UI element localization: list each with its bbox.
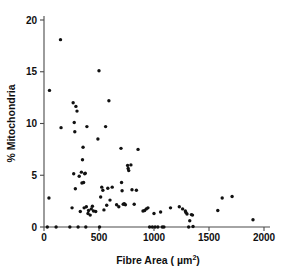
- x-tick-label-0: 0: [41, 232, 47, 243]
- data-point: [91, 205, 94, 208]
- data-point: [188, 219, 191, 222]
- data-point: [84, 225, 87, 228]
- data-point: [107, 99, 110, 102]
- data-point: [191, 225, 194, 228]
- data-point: [124, 203, 127, 206]
- data-point: [117, 205, 120, 208]
- data-point: [71, 101, 74, 104]
- data-point: [78, 175, 81, 178]
- y-axis-title: % Mitochondria: [5, 84, 17, 162]
- data-point: [85, 125, 88, 128]
- data-point: [221, 196, 224, 199]
- data-point: [111, 185, 114, 188]
- data-point: [82, 181, 85, 184]
- data-point: [72, 172, 75, 175]
- data-point: [185, 212, 188, 215]
- data-point: [187, 225, 190, 228]
- data-point: [191, 213, 194, 216]
- data-point: [100, 185, 103, 188]
- data-point: [94, 210, 97, 213]
- data-point: [156, 225, 159, 228]
- x-tick-label-500: 500: [91, 232, 108, 243]
- data-point: [76, 225, 79, 228]
- data-point: [47, 196, 50, 199]
- data-point: [130, 188, 133, 191]
- data-point: [104, 125, 107, 128]
- data-point: [46, 225, 49, 228]
- data-point: [84, 171, 87, 174]
- data-points-group: [46, 38, 255, 229]
- data-point: [146, 206, 149, 209]
- data-point: [54, 225, 57, 228]
- data-point: [80, 170, 83, 173]
- data-point: [79, 210, 82, 213]
- scatter-plot-figure: 050010001500200005101520 Fibre Area ( µm…: [0, 0, 285, 276]
- data-point: [102, 208, 105, 211]
- data-point: [159, 210, 162, 213]
- data-point: [135, 189, 138, 192]
- y-tick-label-20: 20: [26, 15, 38, 26]
- data-point: [85, 205, 88, 208]
- data-point: [216, 209, 219, 212]
- data-point: [89, 213, 92, 216]
- data-point: [108, 198, 111, 201]
- x-tick-label-2000: 2000: [253, 232, 276, 243]
- data-point: [230, 195, 233, 198]
- data-point: [59, 126, 62, 129]
- data-point: [59, 38, 62, 41]
- data-point: [74, 187, 77, 190]
- data-point: [96, 137, 99, 140]
- plot-canvas: 050010001500200005101520 Fibre Area ( µm…: [0, 0, 285, 276]
- x-tick-label-1000: 1000: [143, 232, 166, 243]
- data-point: [127, 169, 130, 172]
- data-point: [129, 163, 132, 166]
- data-point: [70, 206, 73, 209]
- data-point: [162, 225, 165, 228]
- data-point: [133, 203, 136, 206]
- y-tick-label-0: 0: [31, 222, 37, 233]
- data-point: [119, 147, 122, 150]
- data-point: [126, 164, 129, 167]
- data-point: [120, 181, 123, 184]
- y-tick-label-10: 10: [26, 118, 38, 129]
- data-point: [97, 69, 100, 72]
- y-tick-label-15: 15: [26, 66, 38, 77]
- data-point: [98, 225, 101, 228]
- data-point: [101, 189, 104, 192]
- tick-labels-group: 050010001500200005101520: [26, 15, 276, 243]
- data-point: [68, 225, 71, 228]
- data-point: [81, 146, 84, 149]
- data-point: [74, 105, 77, 108]
- x-tick-label-1500: 1500: [198, 232, 221, 243]
- data-point: [73, 130, 76, 133]
- ticks-group: [40, 20, 264, 231]
- data-point: [81, 158, 84, 161]
- data-point: [99, 195, 102, 198]
- data-point: [48, 89, 51, 92]
- data-point: [152, 212, 155, 215]
- y-tick-label-5: 5: [31, 170, 37, 181]
- data-point: [120, 189, 123, 192]
- x-axis-title: Fibre Area ( µm2): [116, 254, 200, 266]
- data-point: [181, 207, 184, 210]
- data-point: [105, 204, 108, 207]
- data-point: [136, 148, 139, 151]
- data-point: [73, 121, 76, 124]
- axes-group: [44, 16, 270, 227]
- data-point: [169, 206, 172, 209]
- data-point: [251, 218, 254, 221]
- data-point: [106, 186, 109, 189]
- data-point: [178, 205, 181, 208]
- data-point: [75, 109, 78, 112]
